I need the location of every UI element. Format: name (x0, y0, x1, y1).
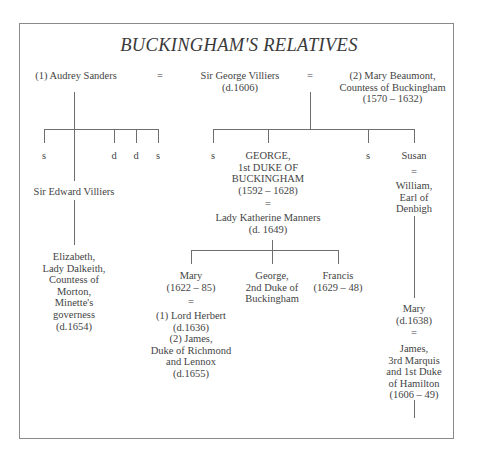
line-drop (114, 129, 115, 143)
elizabeth-lady-dalkeith: Elizabeth, Lady Dalkeith, Countess of Mo… (30, 251, 118, 332)
marriage-symbol-hamilton: = (404, 327, 424, 339)
line-drop (268, 129, 269, 143)
audrey-sanders: (1) Audrey Sanders (30, 70, 122, 82)
william-earl-of-denbigh: William, Earl of Denbigh (384, 180, 444, 215)
child-son: s (360, 150, 376, 162)
line-drop (213, 129, 214, 143)
line-drop (338, 250, 339, 264)
diagram-title: BUCKINGHAM'S RELATIVES (0, 35, 478, 56)
george-1st-duke: GEORGE, 1st DUKE OF BUCKINGHAM (1592 – 1… (218, 150, 318, 196)
line-drop (136, 129, 137, 143)
line-drop (368, 129, 369, 143)
line-denbigh-child (414, 216, 415, 298)
child-son: s (150, 150, 166, 162)
lady-katherine-manners: Lady Katherine Manners (d. 1649) (203, 212, 333, 235)
child-son: s (36, 150, 52, 162)
line-drop (414, 129, 415, 143)
child-daughter: d (106, 150, 122, 162)
line-drop (272, 250, 273, 264)
line-edward-child (74, 200, 75, 245)
line-sibling-bar-3 (191, 250, 339, 251)
line-hamilton-descendants (414, 400, 415, 418)
mary-villiers: Mary (1622 – 85) (156, 270, 226, 293)
francis: Francis (1629 – 48) (303, 270, 373, 293)
mary-beaumont: (2) Mary Beaumont, Countess of Buckingha… (335, 70, 450, 105)
marriage-symbol-2: = (300, 70, 320, 82)
mary-feilding: Mary (d.1638) (384, 303, 444, 326)
marriage-symbol-mary: = (181, 296, 201, 308)
line-drop (191, 250, 192, 264)
sir-george-villiers: Sir George Villiers (d.1606) (190, 70, 290, 93)
mary-husbands: (1) Lord Herbert (d.1636) (2) James, Duk… (136, 310, 246, 380)
line-trunk-2 (310, 92, 311, 129)
line-drop (44, 129, 45, 143)
james-duke-of-hamilton: James, 3rd Marquis and 1st Duke of Hamil… (379, 343, 449, 401)
marriage-symbol-susan: = (404, 166, 424, 178)
line-sibling-bar-1 (44, 129, 159, 130)
marriage-symbol-george: = (258, 198, 278, 210)
marriage-symbol-1: = (150, 70, 170, 82)
sir-edward-villiers: Sir Edward Villiers (24, 186, 124, 198)
line-sibling-bar-2 (213, 129, 415, 130)
george-2nd-duke: George, 2nd Duke of Buckingham (237, 270, 307, 305)
line-trunk-1 (74, 92, 75, 181)
child-daughter: d (128, 150, 144, 162)
line-drop (158, 129, 159, 143)
line-trunk-3 (272, 240, 273, 250)
susan: Susan (389, 150, 439, 162)
